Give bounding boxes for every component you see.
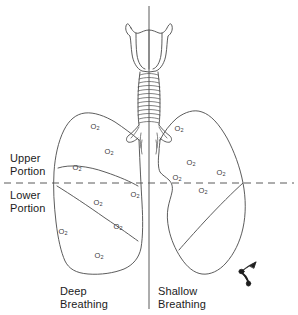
oxygen-marker: O2 (105, 148, 114, 156)
oxygen-marker: O2 (94, 199, 103, 207)
oxygen-marker: O2 (199, 187, 208, 195)
oxygen-marker: O2 (114, 223, 123, 231)
oxygen-marker: O2 (187, 159, 196, 167)
oxygen-marker: O2 (175, 125, 184, 133)
oxygen-marker: O2 (91, 123, 100, 131)
oxygen-marker: O2 (217, 169, 226, 177)
lung-breathing-diagram: Upper Portion Lower Portion Deep Breathi… (0, 0, 298, 315)
label-upper-portion: Upper Portion (10, 152, 46, 177)
label-deep-breathing: Deep Breathing (60, 285, 108, 310)
label-lower-portion: Lower Portion (10, 189, 46, 214)
oxygen-marker: O2 (59, 228, 68, 236)
label-shallow-breathing: Shallow Breathing (158, 285, 206, 310)
oxygen-marker: O2 (173, 174, 182, 182)
oxygen-marker: O2 (131, 191, 140, 199)
oxygen-marker: O2 (95, 252, 104, 260)
oxygen-marker: O2 (73, 164, 82, 172)
bottom-right-pointer (239, 262, 256, 286)
